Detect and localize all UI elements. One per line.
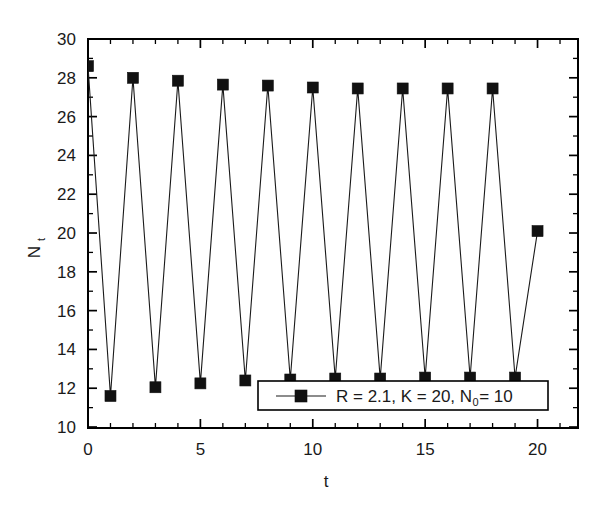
y-tick-label: 16 <box>57 302 76 321</box>
data-point-marker <box>397 83 408 94</box>
data-point-marker <box>217 79 228 90</box>
y-axis-ticks <box>88 39 578 427</box>
y-axis-title: N t <box>25 238 47 258</box>
data-point-marker <box>172 75 183 86</box>
x-axis-tick-labels: 05101520 <box>83 440 547 459</box>
data-point-marker <box>195 378 206 389</box>
data-point-marker <box>83 61 94 72</box>
y-tick-label: 10 <box>57 418 76 437</box>
y-axis-title-subscript: t <box>35 238 47 241</box>
legend[interactable]: R = 2.1, K = 20, N 0 = 10 <box>258 381 548 410</box>
data-point-marker <box>127 72 138 83</box>
plot-frame <box>88 39 578 428</box>
series-markers <box>83 61 544 402</box>
data-point-marker <box>307 82 318 93</box>
y-tick-label: 14 <box>57 340 76 359</box>
data-point-marker <box>150 382 161 393</box>
y-tick-label: 18 <box>57 263 76 282</box>
y-tick-label: 22 <box>57 185 76 204</box>
y-tick-label: 24 <box>57 146 76 165</box>
y-tick-label: 28 <box>57 69 76 88</box>
legend-label-subscript: 0 <box>473 396 479 408</box>
y-axis-title-base: N <box>25 246 44 258</box>
data-point-marker <box>240 375 251 386</box>
x-tick-label: 5 <box>196 440 205 459</box>
legend-sample-marker <box>295 390 307 402</box>
y-tick-label: 20 <box>57 224 76 243</box>
data-point-marker <box>352 83 363 94</box>
x-tick-label: 20 <box>528 440 547 459</box>
figure-canvas: 1012141618202224262830 05101520 N t t R … <box>0 0 608 509</box>
chart-plot: 1012141618202224262830 05101520 N t t R … <box>0 0 608 509</box>
legend-label-after-subscript: = 10 <box>479 387 513 406</box>
series-group <box>83 61 544 402</box>
series-line-path <box>88 66 538 396</box>
x-axis-title: t <box>324 472 329 491</box>
legend-label-before-subscript: R = 2.1, K = 20, N <box>336 387 472 406</box>
x-tick-label: 10 <box>303 440 322 459</box>
data-point-marker <box>262 80 273 91</box>
x-tick-label: 0 <box>83 440 92 459</box>
data-point-marker <box>442 83 453 94</box>
y-axis-tick-labels: 1012141618202224262830 <box>57 30 76 437</box>
data-point-marker <box>532 226 543 237</box>
y-tick-label: 26 <box>57 108 76 127</box>
data-point-marker <box>105 390 116 401</box>
data-point-marker <box>487 83 498 94</box>
y-tick-label: 30 <box>57 30 76 49</box>
y-tick-label: 12 <box>57 379 76 398</box>
x-tick-label: 15 <box>416 440 435 459</box>
